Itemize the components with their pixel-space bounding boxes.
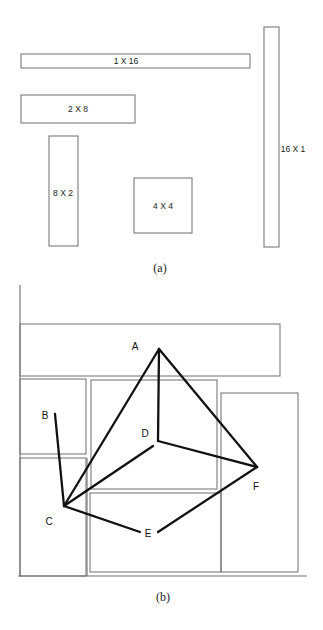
rect-8x2-label: 8 X 2 xyxy=(53,188,73,198)
room-top-wide xyxy=(20,324,280,376)
edge-E-F xyxy=(158,467,257,532)
room-left-upper xyxy=(20,379,86,454)
edge-B-C xyxy=(55,414,64,506)
rect-1x16: 1 X 16 xyxy=(21,54,250,68)
room-left-lower xyxy=(20,458,86,576)
node-label-D: D xyxy=(141,428,148,439)
rect-16x1-label: 16 X 1 xyxy=(281,144,306,154)
figure-a-rectangle-shapes: 1 X 162 X 88 X 24 X 416 X 1 xyxy=(21,27,306,247)
rect-1x16-label: 1 X 16 xyxy=(114,56,139,66)
rect-4x4-label: 4 X 4 xyxy=(153,201,173,211)
edge-A-F xyxy=(159,349,257,467)
floorplan-axes xyxy=(18,285,307,576)
rect-4x4: 4 X 4 xyxy=(134,178,192,233)
rect-16x1-outline xyxy=(264,27,279,247)
node-label-E: E xyxy=(145,528,152,539)
node-label-C: C xyxy=(45,516,52,527)
figure-b-floorplan-graph: ABCDEF xyxy=(18,285,307,576)
rect-16x1: 16 X 1 xyxy=(264,27,306,247)
diagram-canvas: 1 X 162 X 88 X 24 X 416 X 1 (a) ABCDEF (… xyxy=(0,0,323,630)
edge-C-E xyxy=(64,506,140,532)
rect-8x2: 8 X 2 xyxy=(49,136,78,246)
edge-D-F xyxy=(158,441,257,467)
edge-C-D xyxy=(64,446,153,506)
rect-2x8: 2 X 8 xyxy=(21,95,135,123)
node-label-A: A xyxy=(132,341,139,352)
figure-b-caption: (b) xyxy=(156,590,170,604)
edge-A-D xyxy=(158,349,159,441)
node-label-B: B xyxy=(42,410,49,421)
rect-2x8-label: 2 X 8 xyxy=(68,104,88,114)
figure-a-caption: (a) xyxy=(153,261,166,275)
node-label-F: F xyxy=(253,481,259,492)
